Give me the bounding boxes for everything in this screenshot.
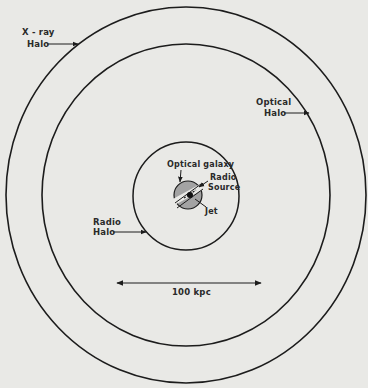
radio-halo-label-line2: Halo: [93, 228, 115, 237]
radio-halo-circle: [133, 142, 239, 250]
xray-halo-label-line1: X - ray: [22, 28, 55, 37]
jet-label: Jet: [205, 208, 218, 216]
scale-bar-label: 100 kpc: [172, 288, 211, 297]
radio-halo-label-line1: Radio: [93, 218, 121, 227]
xray-halo-label-line2: Halo: [27, 40, 49, 49]
diagram-graphics: [0, 0, 368, 388]
optical-halo-label-line1: Optical: [256, 98, 291, 107]
nucleus-dot: [187, 192, 193, 198]
radio-source-label-line1: Radio: [210, 174, 237, 182]
optical-galaxy-icon: [174, 181, 203, 209]
radio-source-label-line2: Source: [208, 184, 240, 192]
optical-galaxy-label: Optical galaxy: [167, 161, 234, 169]
optical-halo-label-line2: Halo: [264, 109, 286, 118]
optical-galaxy-pointer: [180, 170, 181, 182]
halo-diagram: X - ray Halo Optical Halo Radio Halo Opt…: [0, 0, 368, 388]
